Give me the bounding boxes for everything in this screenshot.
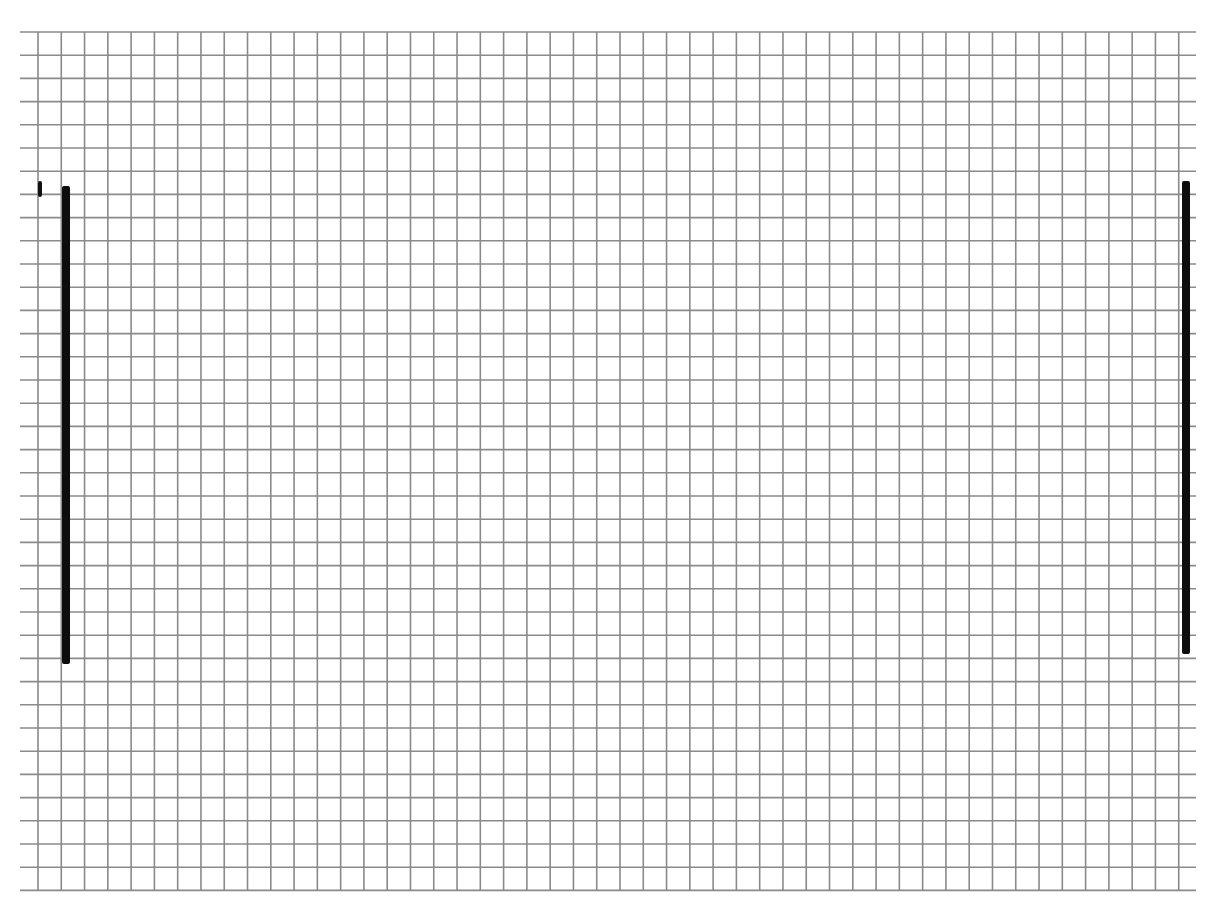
graph-paper-grid	[0, 0, 1216, 915]
left-vertical-stroke	[62, 186, 70, 664]
right-vertical-stroke	[1182, 181, 1190, 654]
small-tick-stroke	[38, 181, 42, 197]
